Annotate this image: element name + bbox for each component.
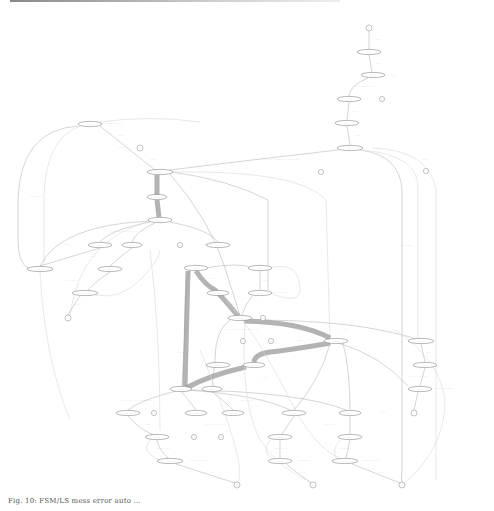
edge (242, 296, 252, 315)
edge-label: ........ (352, 110, 358, 113)
node-label: ... (262, 317, 265, 320)
heavy-edge (186, 367, 246, 388)
edge-label: ......... ........ ........ (205, 423, 226, 426)
edge-label: ........ ........ (157, 447, 170, 450)
edge-label: ........ (375, 62, 381, 65)
edge (182, 392, 196, 410)
edge (88, 272, 110, 290)
edge (150, 250, 160, 430)
node-label: ... (220, 436, 223, 439)
edge-label: ................ (298, 459, 310, 462)
edge-label: ........ ........ (274, 447, 287, 450)
edge-label: ........ (150, 158, 156, 161)
node-label: ........ (366, 51, 373, 54)
edge-label: ........ (378, 471, 384, 474)
edge-label: ........ ........ ........ ........ ....… (120, 399, 154, 402)
edge-label: ........ (297, 339, 303, 342)
edge (360, 150, 405, 485)
edge (170, 222, 218, 242)
edge-labels: ............................ ......... .… (30, 38, 453, 474)
edge (338, 343, 408, 386)
edge-label: ........ (230, 303, 236, 306)
edge-label: ........ (422, 158, 428, 161)
edge (18, 126, 78, 269)
edge-label: ........ (262, 279, 268, 282)
node-label: ... (193, 436, 196, 439)
node-label: ........ (215, 292, 222, 295)
figure-caption: Fig. 10: FSM/LS mess error auto ... (8, 497, 141, 505)
node-label: ... (242, 340, 245, 343)
edge (294, 344, 330, 410)
node-label: ... (139, 147, 142, 150)
edge (40, 272, 70, 420)
node-label: ........ (333, 340, 340, 343)
node-label: ........ (193, 267, 200, 270)
node-label: ... (401, 484, 404, 487)
edge-label: ........ (178, 351, 184, 354)
edge (96, 250, 160, 296)
nodes (27, 25, 437, 488)
node-label: ........ (257, 292, 264, 295)
edge-label: ........................ (270, 291, 288, 294)
node-label: ........ (342, 460, 349, 463)
edge (343, 343, 350, 410)
node-label: ........ (346, 98, 353, 101)
node-label: ........ (417, 388, 424, 391)
edge-label: ........ (262, 376, 268, 379)
edge-label: ........ (145, 423, 151, 426)
edge (352, 464, 400, 483)
node-label: ........ (251, 364, 258, 367)
node-label: ........ (277, 436, 284, 439)
edge-label: ........ (342, 328, 348, 331)
edge-label: ........ (380, 411, 386, 414)
node-label: ........ (347, 412, 354, 415)
node-label: ... (320, 171, 323, 174)
edge-label: ........ (300, 471, 306, 474)
edge-label: ........ (375, 38, 381, 41)
edge-label: ........ (118, 146, 124, 149)
node-label: ... (153, 412, 156, 415)
edge (170, 150, 338, 170)
node-label: ........ (291, 412, 298, 415)
node-label: ........ (37, 268, 44, 271)
node-label: ........ (87, 123, 94, 126)
node-label: ........ (422, 364, 429, 367)
edge-label: ........ ........ (30, 195, 43, 198)
edge-label: ........ (90, 255, 96, 258)
edge-label: ........ ........ ........ (408, 375, 428, 378)
edge-label: ........ ........ (65, 279, 78, 282)
node-label: ... (312, 484, 315, 487)
edge-label: ........................ (362, 459, 380, 462)
edge-label: .... (392, 74, 395, 77)
edge (414, 392, 418, 410)
node-label: ... (270, 340, 273, 343)
edge-label: ........ (210, 277, 216, 280)
node-label: ........ (129, 244, 136, 247)
heavy-edge (157, 200, 159, 217)
node-label: ........ (257, 267, 264, 270)
edge (172, 172, 330, 340)
node-label: ........ (370, 74, 377, 77)
edge (282, 416, 294, 434)
edge-label: ........................... (100, 122, 121, 125)
node-label: ........ (277, 460, 284, 463)
node-label: ........ (193, 412, 200, 415)
node-label: ........ (167, 460, 174, 463)
edge-label: ........ (210, 471, 216, 474)
edge (369, 55, 372, 72)
heavy-edge (254, 343, 330, 362)
edge-label: ................ (338, 447, 350, 450)
edge-label: ........................ (190, 459, 208, 462)
edge-label: ........................ (435, 387, 453, 390)
edge (372, 148, 436, 480)
edge-label: ........ ........ (202, 243, 215, 246)
node-label: ........ (347, 147, 354, 150)
edge-label: ........ ........ ........ ........ ....… (225, 328, 259, 331)
node-label: ........ (178, 388, 185, 391)
node-label: ... (425, 170, 428, 173)
edge (286, 464, 311, 483)
edge-label: ........ ........ (324, 423, 337, 426)
edge-label: ........ (183, 328, 189, 331)
node-label: ........ (82, 292, 89, 295)
edge-label: ........ (64, 243, 70, 246)
